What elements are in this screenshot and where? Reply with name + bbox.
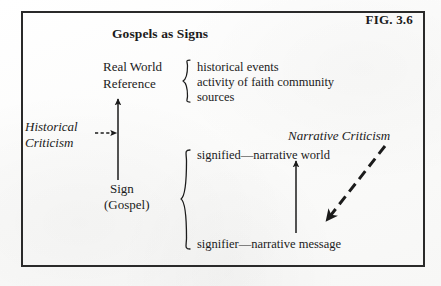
label-narrative-criticism: Narrative Criticism: [288, 129, 390, 144]
node-signified: signified—narrative world: [197, 148, 330, 162]
reference-item: sources: [197, 90, 235, 104]
label-historical-criticism-line2: Criticism: [25, 136, 73, 151]
node-sign-line2: (Gospel): [104, 198, 150, 213]
figure-number-label: FIG. 3.6: [366, 13, 413, 28]
node-sign-line1: Sign: [110, 182, 134, 197]
label-historical-criticism-line1: Historical: [25, 120, 78, 135]
diagram-title: Gospels as Signs: [112, 26, 208, 41]
node-real-world-reference-line1: Real World: [103, 60, 162, 75]
reference-item: activity of faith community: [197, 75, 334, 89]
node-signifier: signifier—narrative message: [197, 237, 341, 251]
reference-item: historical events: [197, 60, 279, 74]
node-real-world-reference-line2: Reference: [103, 77, 156, 92]
figure-diagram: FIG. 3.6 Gospels as Signs Real World Ref…: [0, 0, 441, 286]
